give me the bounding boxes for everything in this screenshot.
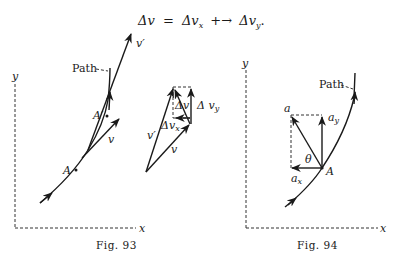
equation: Δv = Δvx +→ Δvy. [137, 13, 265, 31]
x-axis-label: x [139, 222, 146, 235]
caption-fig-93: Fig. 93 [96, 239, 137, 251]
label-v: v [171, 143, 178, 156]
velocity-vector-diagram: Δv Δ vy Δvx v′ v [146, 87, 220, 172]
physics-figure-page: Δv = Δvx +→ Δvy. y x A A′ v v′ Path Fig.… [0, 0, 394, 261]
path-direction-arrow [40, 193, 52, 203]
label-point-a: A [325, 165, 334, 178]
label-v: v [108, 133, 115, 146]
point-a [320, 166, 323, 169]
label-a-prime: A′ [92, 109, 104, 122]
label-delta-vx: Δvx [160, 119, 180, 133]
path-direction-arrow-upper [354, 92, 355, 104]
label-delta-vy: Δ vy [196, 99, 220, 113]
path-direction-arrow [285, 198, 296, 207]
figure-93: y x A A′ v v′ Path Fig. 93 [11, 34, 146, 251]
x-axis-label: x [380, 222, 387, 235]
figure-94: y x Path a ay ax θ A Fig. 94 [241, 57, 387, 251]
y-axis-label: y [241, 57, 249, 70]
label-ay: ay [328, 111, 340, 125]
path-curve [40, 68, 110, 203]
y-axis-label: y [11, 70, 19, 83]
path-label: Path [319, 78, 344, 91]
label-theta: θ [305, 153, 312, 166]
point-a-prime [106, 115, 109, 118]
label-a-vector: a [284, 102, 291, 115]
label-v-prime: v′ [147, 129, 156, 142]
path-label: Path [72, 62, 97, 75]
caption-fig-94: Fig. 94 [297, 239, 338, 251]
path-leader [96, 69, 108, 71]
point-a [75, 169, 78, 172]
label-v-prime: v′ [136, 37, 145, 50]
label-delta-v: Δv [174, 99, 190, 112]
label-ax: ax [291, 172, 303, 186]
label-a: A [62, 164, 71, 177]
